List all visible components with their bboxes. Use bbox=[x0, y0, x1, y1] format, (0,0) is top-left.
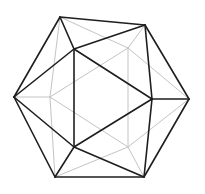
visible-edge-CD bbox=[14, 49, 74, 97]
hidden-edge-JF bbox=[128, 48, 189, 99]
visible-edge-GH bbox=[55, 147, 74, 177]
hidden-edge-LH bbox=[55, 147, 128, 177]
hidden-edge-KL bbox=[50, 97, 128, 147]
hidden-edge-KH bbox=[50, 97, 55, 177]
visible-edge-EG bbox=[74, 99, 152, 147]
icosahedron-diagram bbox=[0, 0, 205, 194]
visible-edge-AD bbox=[60, 17, 74, 49]
visible-edge-GI bbox=[74, 147, 144, 177]
hidden-edge-KA bbox=[50, 17, 60, 97]
visible-edge-CH bbox=[14, 97, 55, 177]
hidden-edge-LI bbox=[128, 147, 144, 177]
hidden-edge-JK bbox=[50, 48, 128, 97]
hidden-edges bbox=[14, 17, 189, 177]
hidden-edge-LF bbox=[128, 99, 189, 147]
visible-edge-AB bbox=[60, 17, 145, 25]
visible-edge-AC bbox=[14, 17, 60, 97]
visible-edge-CG bbox=[14, 97, 74, 147]
